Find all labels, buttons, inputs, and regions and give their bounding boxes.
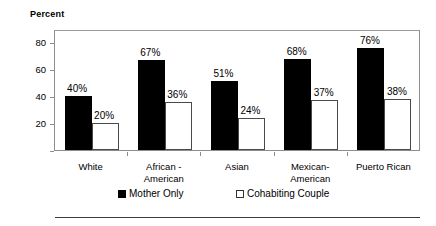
bar-mother-only bbox=[65, 96, 92, 150]
bar-cohabiting-couple bbox=[384, 99, 411, 150]
x-axis-category-label: White bbox=[54, 161, 127, 173]
bar-value-label: 68% bbox=[276, 47, 317, 57]
bar-mother-only bbox=[138, 60, 165, 150]
x-axis-category-label: Asian bbox=[200, 161, 273, 173]
open-square-icon bbox=[236, 190, 244, 198]
chart-legend: Mother Only Cohabiting Couple bbox=[54, 188, 420, 202]
x-tick-mark bbox=[274, 152, 275, 156]
y-tick-label: 80 bbox=[20, 38, 46, 48]
y-tick-mark bbox=[50, 43, 54, 44]
category-label-line: Puerto Rican bbox=[347, 161, 420, 173]
y-tick-label: 40 bbox=[20, 92, 46, 102]
legend-label: Cohabiting Couple bbox=[247, 188, 329, 199]
bar-value-label: 36% bbox=[157, 90, 198, 100]
legend-item-cohabiting-couple: Cohabiting Couple bbox=[236, 188, 329, 199]
bar-chart-figure: Percent 20406080 WhiteAfrican -AmericanA… bbox=[0, 0, 436, 226]
y-tick-mark bbox=[50, 70, 54, 71]
bar-cohabiting-couple bbox=[238, 118, 265, 150]
bar-cohabiting-couple bbox=[311, 100, 338, 150]
bar-mother-only bbox=[357, 48, 384, 150]
x-axis-category-label: African -American bbox=[127, 161, 200, 184]
bar-value-label: 37% bbox=[303, 88, 344, 98]
bar-value-label: 76% bbox=[349, 36, 390, 46]
bar-value-label: 20% bbox=[84, 111, 125, 121]
bottom-divider bbox=[55, 217, 420, 218]
bar-mother-only bbox=[284, 59, 311, 150]
category-label-line: Mexican- bbox=[274, 161, 347, 173]
bar-value-label: 51% bbox=[203, 69, 244, 79]
y-tick-mark bbox=[50, 124, 54, 125]
x-tick-mark bbox=[347, 152, 348, 156]
y-tick-mark-zero bbox=[50, 151, 54, 152]
x-axis-category-label: Puerto Rican bbox=[347, 161, 420, 173]
bar-cohabiting-couple bbox=[165, 102, 192, 150]
bar-value-label: 38% bbox=[376, 87, 417, 97]
plot-area bbox=[54, 30, 420, 151]
bar-mother-only bbox=[211, 81, 238, 150]
y-tick-label: 20 bbox=[20, 119, 46, 129]
filled-square-icon bbox=[118, 190, 126, 198]
bar-value-label: 67% bbox=[130, 48, 171, 58]
category-label-line: American bbox=[274, 173, 347, 185]
category-label-line: African - bbox=[127, 161, 200, 173]
bar-value-label: 24% bbox=[230, 106, 271, 116]
category-label-line: White bbox=[54, 161, 127, 173]
y-tick-label: 60 bbox=[20, 65, 46, 75]
category-label-line: American bbox=[127, 173, 200, 185]
bar-value-label: 40% bbox=[57, 84, 98, 94]
y-axis-title: Percent bbox=[30, 9, 64, 19]
category-label-line: Asian bbox=[200, 161, 273, 173]
x-tick-mark bbox=[200, 152, 201, 156]
x-tick-mark bbox=[127, 152, 128, 156]
legend-label: Mother Only bbox=[129, 188, 183, 199]
legend-item-mother-only: Mother Only bbox=[118, 188, 183, 199]
bar-cohabiting-couple bbox=[92, 123, 119, 150]
plot-inner bbox=[55, 31, 419, 150]
y-tick-mark bbox=[50, 97, 54, 98]
x-axis-category-label: Mexican-American bbox=[274, 161, 347, 184]
